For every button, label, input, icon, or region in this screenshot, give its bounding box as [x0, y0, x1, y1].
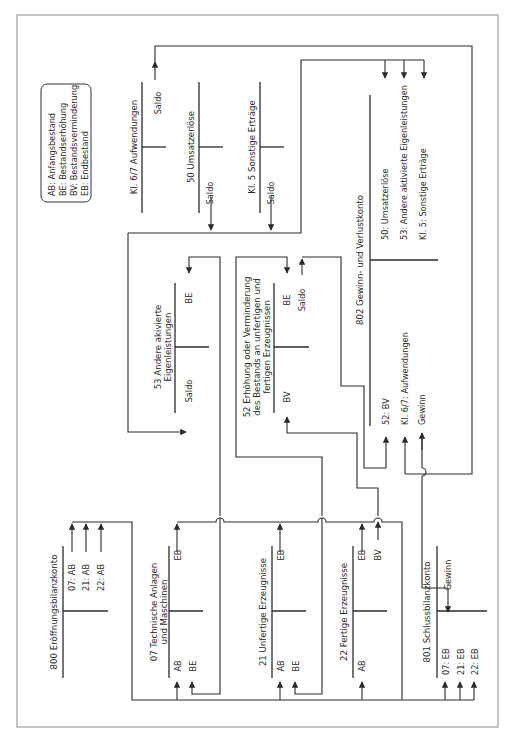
credit-53: 53: Andere aktivierte Eigenleistungen	[399, 85, 409, 240]
account-801-schlussbilanzkonto: 801 Schlussbilanzkonto 07: EB 21: EB 22:…	[422, 546, 487, 678]
debit-ab: AB	[276, 660, 286, 672]
account-kl67-aufwendungen: Kl. 6/7 Aufwendungen Saldo	[129, 82, 166, 213]
credit-label: BE	[184, 293, 194, 304]
debit-21-eb: 21: EB	[456, 648, 466, 675]
credit-07-ab: 07: AB	[67, 564, 77, 591]
account-title-line1: 52 Erhöhung oder Verminderung	[242, 277, 252, 418]
debit-label: BV	[282, 391, 292, 402]
account-22-fertige-erzeugnisse: 22 Fertige Erzeugnisse AB EB BV	[339, 546, 387, 678]
connectors-middle	[189, 257, 448, 612]
account-title: 800 Eröffnungsbilanzkonto	[49, 555, 59, 670]
account-title: 21 Unfertige Erzeugnisse	[258, 558, 268, 666]
account-flow-diagram: AB: Anfangsbestand BE: Bestandserhöhung …	[0, 0, 511, 740]
legend-be: BE: Bestandserhöhung	[58, 103, 68, 196]
debit-be: BE	[188, 661, 198, 672]
debit-label: Saldo	[184, 380, 194, 403]
credit-kl5: Kl. 5: Sonstige Erträge	[418, 148, 428, 240]
credit-eb: EB	[173, 549, 183, 560]
account-title: 22 Fertige Erzeugnisse	[339, 563, 349, 661]
credit-eb: EB	[276, 549, 286, 560]
account-50-umsatzerloese: 50 Umsatzerlöse Saldo	[186, 82, 223, 213]
account-802-gewinn-und-verlustkonto: 802 Gewinn- und Verlustkonto 52: BV Kl. …	[355, 85, 438, 426]
account-title: 50 Umsatzerlöse	[186, 111, 196, 183]
account-title: 801 Schlussbilanzkonto	[422, 561, 432, 662]
debit-22-eb: 22: EB	[470, 648, 480, 675]
debit-kl67: Kl. 6/7: Aufwendungen	[400, 332, 410, 425]
account-21-unfertige-erzeugnisse: 21 Unfertige Erzeugnisse AB BE EB	[258, 546, 306, 678]
credit-bv: BV	[373, 549, 383, 560]
debit-label: Saldo	[205, 182, 215, 205]
account-title: Kl. 6/7 Aufwendungen	[129, 100, 139, 195]
account-07-technische-anlagen: 07 Technische Anlagen und Maschinen AB B…	[149, 546, 203, 678]
credit-gewinn: Gewinn	[443, 560, 453, 591]
legend-bv: BV: Bestandsverminderung	[69, 85, 79, 196]
credit-50: 50: Umsatzerlöse	[380, 168, 390, 240]
account-kl5-sonstige-ertraege: Kl. 5 Sonstige Erträge Saldo	[247, 82, 284, 213]
account-800-eroeffnungsbilanzkonto: 800 Eröffnungsbilanzkonto 07: AB 21: AB …	[49, 546, 108, 678]
debit-be: BE	[291, 661, 301, 672]
debit-52-bv: 52: BV	[381, 398, 391, 425]
credit-label: Saldo	[153, 92, 163, 115]
debit-ab: AB	[173, 660, 183, 672]
account-title: Kl. 5 Sonstige Erträge	[247, 100, 257, 193]
account-title-line2: des Bestands an unfertigen und	[252, 278, 262, 416]
account-title-line3: fertigen Erzeugnissen	[262, 300, 272, 394]
account-52-bestandsveraenderung: 52 Erhöhung oder Verminderung des Bestan…	[242, 277, 309, 418]
account-title-line2: Eigenleistungen	[163, 313, 173, 382]
debit-07-eb: 07: EB	[441, 648, 451, 675]
debit-ab: AB	[357, 660, 367, 672]
legend-ab: AB: Anfangsbestand	[47, 113, 57, 196]
credit-22-ab: 22: AB	[96, 564, 106, 591]
debit-gewinn: Gewinn	[417, 394, 427, 425]
account-title: 802 Gewinn- und Verlustkonto	[355, 195, 365, 325]
account-title-line1: 53 Andere akivierte	[153, 305, 163, 390]
account-title-line1: 07 Technische Anlagen	[149, 563, 159, 662]
legend: AB: Anfangsbestand BE: Bestandserhöhung …	[41, 84, 91, 202]
credit-21-ab: 21: AB	[81, 564, 91, 591]
credit-label-be: BE	[282, 295, 292, 306]
account-title-line2: und Maschinen	[159, 580, 169, 645]
figure-caption	[18, 728, 498, 740]
account-53-andere-aktivierte-eigenleistungen: 53 Andere akivierte Eigenleistungen Sald…	[153, 283, 209, 413]
credit-label-saldo: Saldo	[297, 289, 307, 312]
connectors-bottom	[72, 518, 474, 700]
legend-eb: EB: Endbestand	[80, 131, 90, 196]
